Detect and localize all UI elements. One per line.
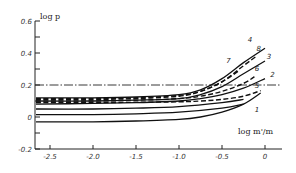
y-axis-title: log p — [40, 12, 60, 21]
curve-label-7: 7 — [226, 57, 231, 65]
y-tick-label: 0 — [28, 114, 33, 122]
x-tick-label: -1.0 — [172, 153, 186, 161]
y-tick-label: 0.4 — [21, 50, 32, 58]
y-tick-label: 0.2 — [21, 82, 33, 90]
y-tick-label: 0.6 — [21, 18, 33, 26]
curve-label-1: 1 — [255, 106, 259, 114]
curve-label-4: 4 — [248, 36, 252, 44]
curve-label-3: 3 — [267, 53, 271, 61]
x-axis-title: log m'/m — [238, 127, 274, 136]
x-tick-label: 0 — [263, 153, 268, 161]
x-tick-label: -1.5 — [129, 153, 143, 161]
curve-label-2: 2 — [270, 71, 275, 79]
curve-3 — [36, 61, 265, 101]
curve-label-5: 5 — [255, 82, 260, 90]
curve-label-8: 8 — [256, 45, 261, 53]
y-tick-label: -0.2 — [18, 146, 32, 154]
curve-label-6: 6 — [255, 65, 260, 73]
x-tick-label: -2.0 — [86, 153, 100, 161]
x-tick-label: -0.5 — [215, 153, 229, 161]
curve-labels: 48376251 — [226, 36, 275, 114]
chart: -0.200.20.40.6-2.5-2.0-1.5-1.0-0.50 4837… — [0, 0, 296, 173]
x-tick-label: -2.5 — [43, 153, 57, 161]
